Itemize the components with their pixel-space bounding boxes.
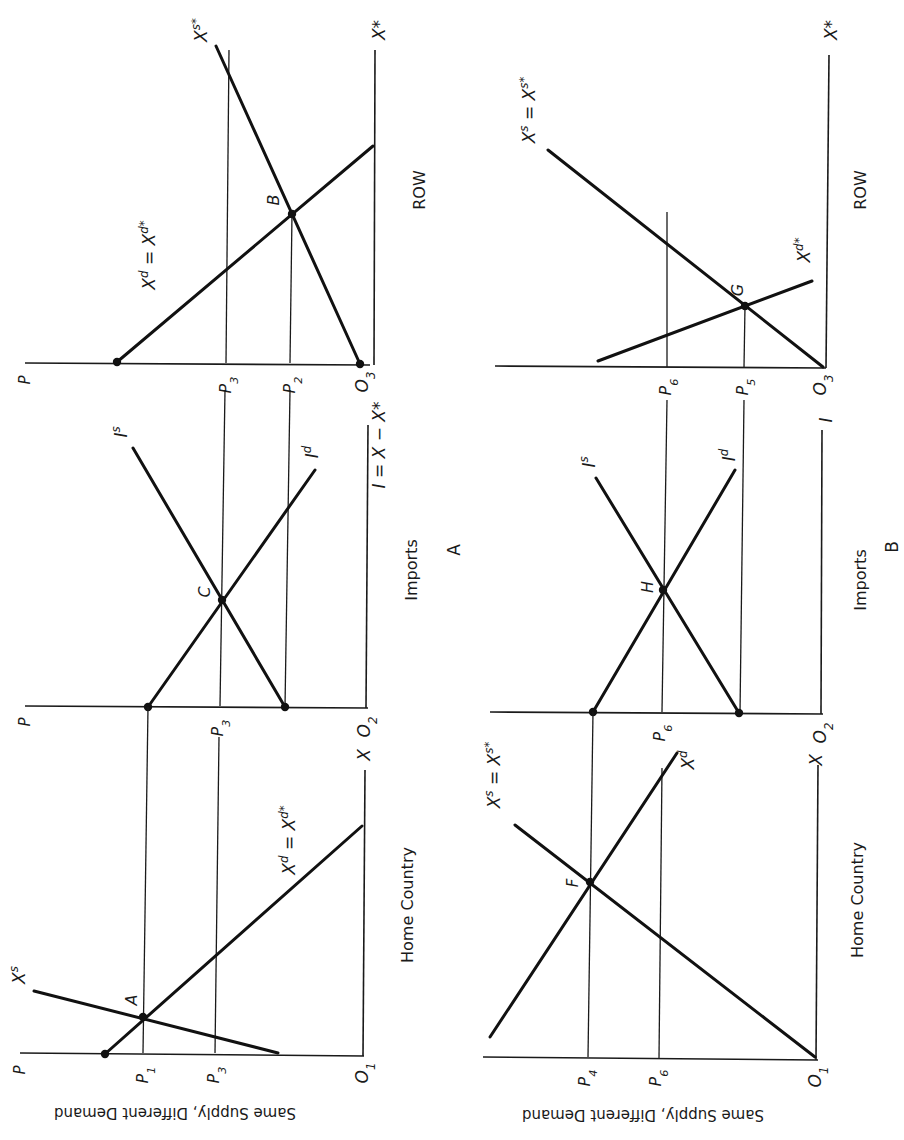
label-part: C	[195, 586, 214, 598]
label-part: X	[484, 796, 504, 809]
home-a-demand-label: Xd = Xd*	[277, 805, 299, 875]
label-part: X	[354, 749, 374, 762]
panel-b-label: B	[882, 541, 902, 553]
point-b-label: B	[264, 195, 283, 206]
label-part: s*	[482, 742, 496, 754]
row-a-demand-label: Xd = Xd*	[137, 220, 159, 290]
home-a-supply-curve	[34, 991, 278, 1053]
label-part: ROW	[851, 170, 870, 210]
home-b-demand-label: Xd	[676, 750, 698, 771]
label-part: 1	[145, 1067, 158, 1074]
row-a-origin-label: O3	[352, 372, 378, 393]
label-part: s	[7, 966, 21, 972]
panel-b-caption: Same Supply, Different Demand	[522, 1106, 764, 1124]
label-part: 2	[822, 723, 836, 731]
row-b-p6-label: P6	[656, 379, 681, 396]
point-a-dot	[139, 1013, 147, 1021]
home-b-quantity-axis	[816, 765, 818, 1060]
label-part: X	[9, 972, 29, 985]
imports-a-demand-label: Id	[300, 445, 322, 458]
imports-b-title: Imports	[851, 549, 870, 610]
label-part: P	[16, 717, 34, 727]
label-part: s	[109, 426, 123, 432]
row-b-demand-curve	[598, 281, 812, 361]
label-part: 4	[587, 1070, 600, 1077]
home-b-x-label: X	[806, 754, 826, 767]
imports-b-origin-label: O2	[810, 723, 836, 744]
label-part: P	[11, 1065, 29, 1075]
home-a-p-axis-label: P	[11, 1065, 29, 1075]
point-f-label: F	[564, 878, 582, 887]
point-c-dot	[218, 596, 226, 604]
imports-a-quantity-axis	[366, 425, 368, 708]
label-part: 3	[364, 372, 378, 380]
home-a-origin-label: O1	[352, 1063, 378, 1084]
home-b-p6-label: P6	[646, 1070, 671, 1087]
label-part: Home Country	[398, 847, 417, 963]
row-a-title: ROW	[410, 170, 429, 210]
trade-equilibrium-figure: PP3P2O3X*Xs*Xd = Xd*BROWPP3O2IsIdI = X −…	[0, 0, 904, 1140]
imports-a-supply-label: Is	[109, 426, 131, 437]
row-b-xstar-label: X*	[821, 20, 841, 41]
label-part: X	[806, 754, 826, 767]
label-part: Same Supply, Different Demand	[522, 1106, 764, 1124]
label-part: 3	[216, 1067, 229, 1074]
row-b-supply-label: Xs = Xs*	[517, 77, 539, 145]
imports-b-demand-label: Id	[717, 448, 739, 461]
row-a-p-axis-label: P	[16, 375, 34, 385]
imports-b-supply-label: Is	[577, 456, 599, 467]
label-part: d	[717, 448, 731, 456]
label-part: P	[656, 385, 675, 395]
label-part: O	[810, 382, 830, 395]
row-b-title: ROW	[851, 170, 870, 210]
row-a-xstar-label: X*	[369, 20, 389, 41]
label-part: P	[204, 1073, 223, 1083]
row-a-quantity-axis	[374, 50, 375, 365]
label-part: 6	[658, 1070, 671, 1077]
imports-a-origin-label: O2	[354, 717, 380, 738]
imports-b-p6-line	[662, 400, 667, 712]
label-part: O	[354, 724, 374, 737]
label-part: 2	[292, 377, 305, 384]
home-a-demand-intercept	[101, 1050, 109, 1058]
imports-a-import-supply	[133, 448, 285, 707]
label-part: P	[575, 1076, 594, 1086]
label-part: 1	[364, 1063, 378, 1071]
home-b-title: Home Country	[848, 842, 867, 958]
label-part: G	[728, 284, 747, 296]
label-part: A	[444, 544, 464, 556]
label-part: Home Country	[848, 842, 867, 958]
imports-a-axis-label: I = X − X*	[369, 402, 389, 489]
home-a-title: Home Country	[398, 847, 417, 963]
label-part: P	[208, 726, 227, 736]
label-part: I = X − X*	[369, 402, 389, 489]
imports-a-p3-label: P3	[208, 720, 233, 737]
label-part: X*	[369, 20, 389, 41]
imports-a-p2-line	[285, 390, 290, 707]
label-part: P	[216, 383, 235, 393]
label-part: Imports	[851, 549, 870, 610]
row-b-supply-curve	[548, 150, 823, 367]
label-part: P	[646, 1076, 665, 1086]
label-part: P	[650, 731, 669, 741]
label-part: H	[638, 581, 657, 593]
home-b-price-axis	[483, 1057, 818, 1060]
label-part: ROW	[410, 170, 429, 210]
label-part: X	[139, 278, 159, 291]
label-part: X	[279, 863, 299, 876]
row-a-price-axis	[25, 363, 370, 365]
row-b-demand-label: Xd*	[792, 237, 814, 263]
label-part: I	[816, 417, 836, 422]
home-a-p1-line	[143, 707, 148, 1053]
label-part: Same Supply, Different Demand	[54, 1104, 296, 1122]
label-part: B	[264, 195, 283, 206]
label-part: X	[678, 758, 698, 771]
label-part: = X	[519, 88, 539, 125]
row-a-supply-intercept	[356, 360, 364, 368]
label-part: d	[300, 445, 314, 453]
label-part: s	[577, 456, 591, 462]
point-g-dot	[741, 302, 749, 310]
home-b-demand-curve	[490, 753, 677, 1037]
home-a-p3-line	[215, 737, 219, 1053]
label-part: 1	[817, 1067, 831, 1075]
